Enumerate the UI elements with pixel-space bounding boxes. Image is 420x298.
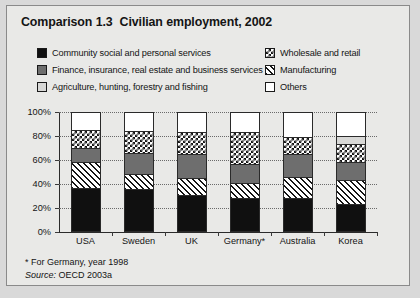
bar-segment [283, 112, 313, 137]
bar-segment [336, 204, 366, 232]
bar-segment [283, 198, 313, 232]
bar-segment [336, 144, 366, 162]
y-axis-tick-label: 40% [17, 179, 51, 189]
bar-segment [177, 154, 207, 178]
y-axis-tick-label: 60% [17, 155, 51, 165]
x-axis-label: Germany* [224, 236, 265, 246]
bar-segment [124, 112, 154, 131]
gridline [59, 112, 377, 113]
y-axis-tick [55, 184, 59, 185]
figure-panel: Comparison 1.3Civilian employment, 2002 … [6, 5, 410, 286]
x-axis-tick [377, 232, 378, 236]
x-axis-tick [218, 232, 219, 236]
x-axis-tick [165, 232, 166, 236]
x-axis-label: USA [76, 236, 95, 246]
x-axis-tick [324, 232, 325, 236]
source-label: Source: [25, 270, 56, 280]
bar-usa[interactable] [71, 112, 101, 232]
bar-segment [336, 112, 366, 136]
bar-segment [230, 198, 260, 232]
bar-segment [177, 178, 207, 195]
bar-segment [124, 174, 154, 188]
bar-segment [230, 164, 260, 183]
bar-segment [177, 112, 207, 132]
bar-segment [71, 112, 101, 130]
gridline [59, 208, 377, 209]
gridline [59, 136, 377, 137]
bar-segment [336, 136, 366, 144]
y-axis-tick [55, 112, 59, 113]
y-axis-labels: 0%20%40%60%80%100% [17, 6, 51, 287]
y-axis-line [59, 112, 60, 233]
y-axis-tick [55, 136, 59, 137]
bar-segment [71, 130, 101, 148]
x-axis-label: UK [185, 236, 198, 246]
plot-area: USASwedenUKGermany*AustraliaKorea [59, 112, 377, 232]
y-axis-tick [55, 208, 59, 209]
bar-segment [336, 162, 366, 180]
y-axis-tick-label: 20% [17, 203, 51, 213]
bar-australia[interactable] [283, 112, 313, 232]
bar-segment [177, 132, 207, 154]
bar-segment [71, 148, 101, 162]
x-axis-tick [271, 232, 272, 236]
x-axis-label: Sweden [122, 236, 155, 246]
y-axis-tick-label: 80% [17, 131, 51, 141]
footnote: * For Germany, year 1998 [25, 257, 128, 267]
bar-segment [336, 180, 366, 204]
bar-germany[interactable] [230, 112, 260, 232]
bar-korea[interactable] [336, 112, 366, 232]
y-axis-tick-label: 100% [17, 107, 51, 117]
bar-segment [283, 177, 313, 199]
bar-segment [124, 189, 154, 232]
chart-plot: 0%20%40%60%80%100% USASwedenUKGermany*Au… [7, 6, 411, 287]
y-axis-tick-label: 0% [17, 227, 51, 237]
bar-segment [124, 153, 154, 175]
bar-segment [230, 112, 260, 132]
source-line: Source: OECD 2003a [25, 270, 112, 280]
x-axis-label: Australia [280, 236, 316, 246]
bar-segment [71, 162, 101, 187]
bar-segment [230, 132, 260, 163]
bar-segment [283, 154, 313, 177]
y-axis-tick [55, 160, 59, 161]
source-value: OECD 2003a [59, 270, 113, 280]
bar-segment [283, 137, 313, 154]
y-axis-tick [55, 232, 59, 233]
bar-segment [177, 195, 207, 232]
x-axis-tick [112, 232, 113, 236]
gridline [59, 184, 377, 185]
bar-segment [71, 188, 101, 232]
bar-segment [230, 183, 260, 199]
x-axis-label: Korea [338, 236, 363, 246]
bar-uk[interactable] [177, 112, 207, 232]
gridline [59, 160, 377, 161]
bar-segment [124, 131, 154, 153]
bar-sweden[interactable] [124, 112, 154, 232]
